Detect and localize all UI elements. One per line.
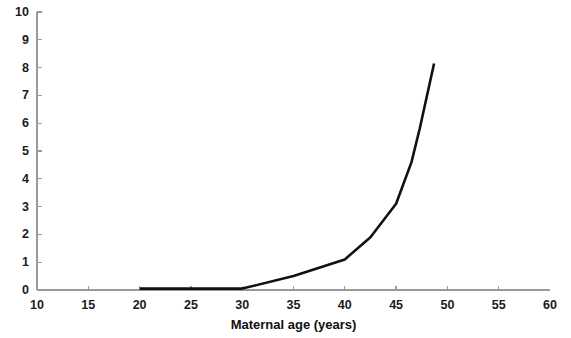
x-tick-label: 30 <box>235 299 249 312</box>
x-tick-label: 45 <box>389 299 403 312</box>
y-tick-label: 10 <box>0 6 29 19</box>
x-tick-label: 10 <box>30 299 44 312</box>
y-tick-label: 7 <box>0 89 29 102</box>
y-tick-label: 8 <box>0 61 29 74</box>
y-tick-label: 4 <box>0 173 29 186</box>
y-tick-label: 6 <box>0 117 29 130</box>
x-axis-title: Maternal age (years) <box>231 317 357 332</box>
y-tick-label: 3 <box>0 200 29 213</box>
x-tick-label: 35 <box>287 299 301 312</box>
x-tick-label: 50 <box>440 299 454 312</box>
x-tick-label: 25 <box>184 299 198 312</box>
series-layer <box>140 63 434 288</box>
y-tick-label: 5 <box>0 145 29 158</box>
x-tick-label: 20 <box>133 299 147 312</box>
chart-plot-area <box>0 0 571 338</box>
axis-layer <box>37 12 550 290</box>
x-tick-label: 40 <box>338 299 352 312</box>
data-line <box>140 63 434 288</box>
x-tick-label: 60 <box>543 299 557 312</box>
y-tick-label: 9 <box>0 34 29 47</box>
chart-figure: 012345678910 1015202530354045505560 Mate… <box>0 0 571 338</box>
x-tick-label: 55 <box>492 299 506 312</box>
y-tick-label: 1 <box>0 256 29 269</box>
y-tick-label: 2 <box>0 228 29 241</box>
y-tick-label: 0 <box>0 284 29 297</box>
x-tick-label: 15 <box>81 299 95 312</box>
